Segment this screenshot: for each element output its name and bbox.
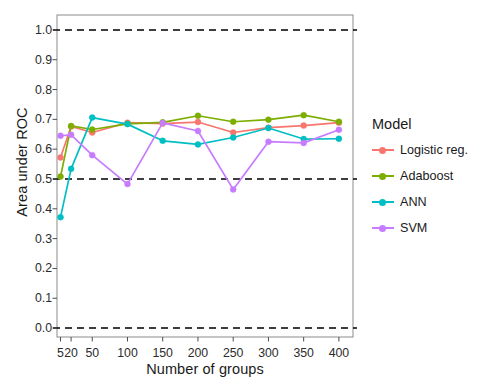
data-point xyxy=(195,113,201,119)
data-point xyxy=(89,115,95,121)
data-point xyxy=(230,119,236,125)
panel-background xyxy=(57,15,353,337)
legend-item-ann[interactable]: ANN xyxy=(372,191,427,213)
legend-item-logistic-reg[interactable]: Logistic reg. xyxy=(372,139,468,161)
data-point xyxy=(58,214,64,220)
data-point xyxy=(195,119,201,125)
data-point xyxy=(89,152,95,158)
legend-key-icon xyxy=(372,144,394,156)
data-point xyxy=(58,174,64,180)
legend-key-icon xyxy=(372,222,394,234)
data-point xyxy=(68,132,74,138)
legend-item-label: Logistic reg. xyxy=(400,143,468,157)
legend-key-icon xyxy=(372,196,394,208)
data-point xyxy=(301,112,307,118)
data-point xyxy=(230,135,236,141)
legend-item-label: SVM xyxy=(400,221,427,235)
data-point xyxy=(58,133,64,139)
legend-item-adaboost[interactable]: Adaboost xyxy=(372,165,453,187)
data-point xyxy=(68,166,74,172)
data-point xyxy=(265,139,271,145)
chart-figure: Area under ROC Number of groups 0.00.10.… xyxy=(0,0,479,392)
data-point xyxy=(230,186,236,192)
data-point xyxy=(301,123,307,129)
data-point xyxy=(68,123,74,129)
legend-title: Model xyxy=(372,116,412,132)
data-point xyxy=(265,117,271,123)
data-point xyxy=(89,126,95,132)
data-point xyxy=(336,136,342,142)
data-point xyxy=(58,155,64,161)
data-point xyxy=(195,128,201,134)
legend-key-icon xyxy=(372,170,394,182)
data-point xyxy=(124,121,130,127)
data-point xyxy=(301,140,307,146)
data-point xyxy=(195,141,201,147)
data-point xyxy=(160,120,166,126)
legend-item-svm[interactable]: SVM xyxy=(372,217,427,239)
legend-item-label: ANN xyxy=(400,195,427,209)
data-point xyxy=(160,138,166,144)
data-point xyxy=(336,127,342,133)
data-point xyxy=(124,181,130,187)
legend-item-label: Adaboost xyxy=(400,169,453,183)
data-point xyxy=(336,119,342,125)
data-point xyxy=(265,125,271,131)
